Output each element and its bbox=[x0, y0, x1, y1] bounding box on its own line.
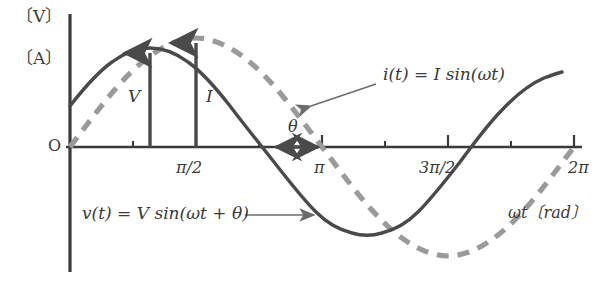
x-axis-label: ωt〔rad〕 bbox=[508, 205, 587, 221]
phase-label-theta: θ bbox=[288, 119, 298, 135]
figure-canvas: 〔V〕 〔A〕 O π/2 π 3π/2 2π V I θ i(t) = I s… bbox=[0, 0, 614, 282]
amplitude-label-i: I bbox=[206, 88, 213, 105]
x-tick-label-pi-over-2: π/2 bbox=[176, 160, 202, 176]
x-tick-label-pi: π bbox=[314, 160, 325, 176]
leader-line-current bbox=[311, 84, 376, 106]
y-axis-unit-ampere: 〔A〕 bbox=[16, 50, 62, 67]
waveform-plot bbox=[0, 0, 614, 282]
x-tick-label-3pi-over-2: 3π/2 bbox=[419, 160, 455, 176]
y-axis-unit-volt: 〔V〕 bbox=[16, 8, 62, 25]
equation-voltage: v(t) = V sin(ωt + θ) bbox=[82, 205, 249, 222]
x-tick-label-2pi: 2π bbox=[568, 160, 589, 176]
amplitude-label-v: V bbox=[128, 88, 140, 105]
equation-current: i(t) = I sin(ωt) bbox=[383, 66, 505, 83]
origin-label: O bbox=[48, 138, 61, 154]
x-axis-ticks bbox=[133, 135, 574, 147]
